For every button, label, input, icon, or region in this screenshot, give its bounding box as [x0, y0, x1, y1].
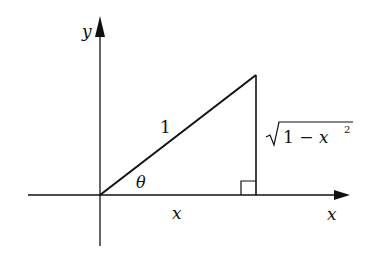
y-axis-arrow-icon: [95, 16, 105, 37]
right-angle-marker: [241, 181, 256, 195]
x-axis-label: x: [327, 204, 337, 224]
base-label: x: [172, 203, 182, 223]
height-label-radicand: 1 − x: [283, 127, 329, 147]
height-label: 1 − x 2: [266, 122, 353, 147]
hypotenuse: [100, 75, 256, 195]
triangle-diagram: y x 1 θ x 1 − x 2: [0, 0, 371, 259]
right-triangle: [100, 75, 256, 195]
height-label-exponent: 2: [344, 124, 350, 135]
y-axis-label: y: [81, 21, 92, 41]
x-axis-arrow-icon: [334, 190, 350, 200]
x-axis: [28, 190, 350, 200]
hypotenuse-label: 1: [160, 117, 171, 137]
y-axis: [95, 16, 105, 246]
angle-label: θ: [136, 173, 146, 192]
